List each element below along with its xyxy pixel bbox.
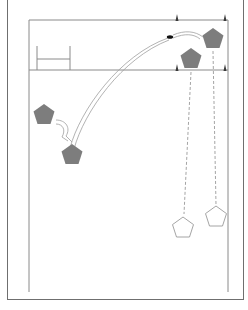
defending-players xyxy=(173,206,227,237)
pass-to-receiver-inner xyxy=(173,35,200,39)
pentagon-icon xyxy=(34,104,55,124)
player-attacker-1[interactable] xyxy=(203,28,224,48)
defender-run-lines xyxy=(184,51,216,214)
player-attacker-2[interactable] xyxy=(181,48,202,68)
pentagon-icon xyxy=(203,28,224,48)
player-defender-1[interactable] xyxy=(173,217,194,237)
ball-icon xyxy=(167,35,173,39)
cone-icon xyxy=(224,64,227,71)
pass-lines xyxy=(56,32,203,149)
pentagon-icon xyxy=(181,48,202,68)
support-run-inner xyxy=(56,124,68,141)
pentagon-icon xyxy=(62,144,83,164)
pass-arc-inner xyxy=(74,40,169,149)
drill-diagram xyxy=(0,0,248,310)
player-defender-2[interactable] xyxy=(206,206,227,226)
cone-icon xyxy=(176,14,179,21)
pentagon-outline-icon xyxy=(206,206,227,226)
player-attacker-3[interactable] xyxy=(34,104,55,124)
attacking-players xyxy=(34,28,224,164)
pentagon-outline-icon xyxy=(173,217,194,237)
cone-icon xyxy=(224,14,227,21)
cone-icon xyxy=(176,64,179,71)
player-attacker-4[interactable] xyxy=(62,144,83,164)
pass-arc-outer xyxy=(70,38,168,148)
goal-posts xyxy=(37,46,70,70)
